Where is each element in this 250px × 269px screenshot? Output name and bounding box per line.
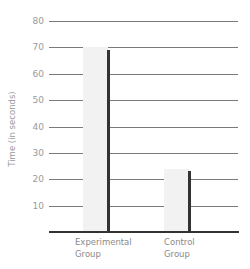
bar-light [164, 169, 189, 232]
y-tick-label: 60 [18, 69, 44, 79]
y-tick-label: 70 [18, 42, 44, 52]
y-tick-label: 10 [18, 201, 44, 211]
y-tick-label: 30 [18, 148, 44, 158]
gridline [49, 74, 238, 75]
gridline [49, 179, 238, 180]
bar-dark [107, 50, 110, 232]
x-category-label: ControlGroup [164, 236, 195, 260]
y-tick-label: 40 [18, 122, 44, 132]
gridline [49, 153, 238, 154]
gridline [49, 21, 238, 22]
x-category-label: ExperimentalGroup [75, 236, 132, 260]
gridline [49, 206, 238, 207]
bar-chart: Time (in seconds) 1020304050607080 Exper… [0, 0, 250, 269]
x-axis-baseline [49, 231, 239, 233]
gridline [49, 100, 238, 101]
y-axis-label: Time (in seconds) [7, 89, 17, 169]
bar-dark [188, 171, 191, 232]
y-tick-label: 50 [18, 95, 44, 105]
bar-light [83, 47, 108, 232]
gridline [49, 47, 238, 48]
y-tick-label: 80 [18, 16, 44, 26]
y-tick-label: 20 [18, 174, 44, 184]
gridline [49, 127, 238, 128]
